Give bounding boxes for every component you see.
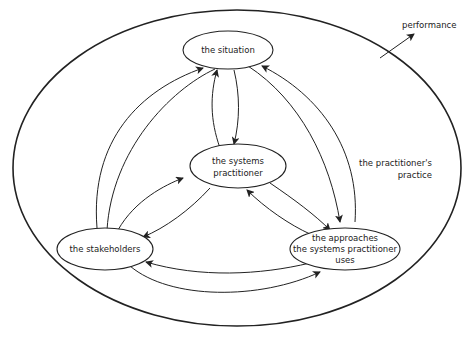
performance-arrow — [380, 34, 414, 58]
node-approaches-label-1: the approaches — [312, 233, 379, 243]
node-practitioner: the systems practitioner — [190, 144, 286, 188]
node-practitioner-label-2: practitioner — [213, 168, 263, 178]
edge-practitioner-approaches — [270, 183, 330, 230]
node-situation-label: the situation — [201, 45, 255, 55]
boundary-label-1: the practitioner's — [359, 158, 432, 168]
node-stakeholders-label: the stakeholders — [70, 244, 142, 254]
node-approaches-label-2: the systems practitioner — [293, 244, 397, 254]
node-practitioner-label-1: the systems — [212, 156, 264, 166]
edge-practitioner-stakeholders — [143, 188, 210, 237]
boundary-label-2: practice — [398, 170, 432, 180]
edge-stakeholders-approaches — [130, 266, 320, 292]
edge-stakeholders-practitioner — [118, 178, 183, 230]
node-approaches: the approaches the systems practitioner … — [290, 228, 400, 270]
diagram-canvas: the situation the systems practitioner t… — [0, 0, 468, 337]
edge-approaches-practitioner — [247, 190, 310, 234]
edge-approaches-stakeholders — [146, 262, 310, 273]
edge-situation-practitioner — [234, 70, 239, 144]
node-situation: the situation — [183, 31, 273, 69]
performance-label: performance — [402, 20, 456, 30]
node-approaches-label-3: uses — [335, 255, 355, 265]
edge-practitioner-situation — [212, 70, 220, 148]
edge-situation-approaches — [248, 66, 340, 222]
edge-stakeholders-situation — [96, 68, 203, 228]
node-stakeholders: the stakeholders — [57, 228, 153, 270]
edge-situation-stakeholders — [107, 69, 215, 230]
